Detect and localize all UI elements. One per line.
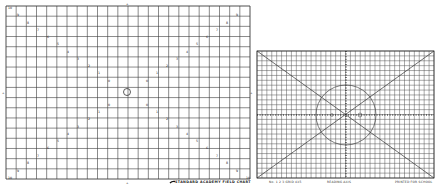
field-marker: 0 xyxy=(108,103,110,107)
field-marker: 5 xyxy=(57,42,59,46)
svg-text:+: + xyxy=(126,181,129,185)
field-marker: 1 xyxy=(98,71,100,75)
field-marker: 3 xyxy=(176,57,178,61)
field-marker: 1 xyxy=(98,110,100,114)
field-marker: 2 xyxy=(88,64,90,68)
chart-caption: STANDARD ACADEMY FIELD CHART xyxy=(175,180,251,184)
field-marker: 9 xyxy=(17,13,19,17)
svg-text:+: + xyxy=(126,2,129,6)
field-marker: 5 xyxy=(196,139,198,143)
field-marker: 2 xyxy=(166,64,168,68)
reading-axis-grid-chart: No. 1 2 3 GRID 4X5 READING AXIS PRINTED … xyxy=(255,48,435,187)
field-marker: 4 xyxy=(67,132,69,136)
standard-academy-field-chart: 1098765432109876543210012345678910012345… xyxy=(0,0,258,187)
field-marker: 7 xyxy=(37,28,39,32)
field-marker: 8 xyxy=(226,161,228,165)
field-marker: 0 xyxy=(146,79,148,83)
svg-text:+: + xyxy=(250,91,253,95)
field-marker: 9 xyxy=(236,13,238,17)
field-marker: 6 xyxy=(206,35,208,39)
footer-label-right: PRINTED FOR SCHOOL xyxy=(395,180,432,184)
field-marker: 10 xyxy=(8,6,12,10)
field-marker: 7 xyxy=(216,28,218,32)
field-marker: 9 xyxy=(17,169,19,173)
field-marker: 3 xyxy=(176,125,178,129)
field-marker: 1 xyxy=(156,71,158,75)
field-marker: 6 xyxy=(206,146,208,150)
field-marker: 8 xyxy=(27,21,29,25)
svg-text:+: + xyxy=(2,91,5,95)
field-marker: 6 xyxy=(47,35,49,39)
footer-label-center: READING AXIS xyxy=(327,180,351,184)
field-marker: 9 xyxy=(236,169,238,173)
field-marker: 6 xyxy=(47,146,49,150)
field-marker: 8 xyxy=(226,21,228,25)
field-marker: 7 xyxy=(216,154,218,158)
axis-grid xyxy=(255,48,435,187)
field-marker: 7 xyxy=(37,154,39,158)
footer-label-left: No. 1 2 3 GRID 4X5 xyxy=(269,180,302,184)
field-marker: 0 xyxy=(108,79,110,83)
field-chart-grid: 1098765432109876543210012345678910012345… xyxy=(0,0,258,187)
field-marker: 4 xyxy=(186,50,188,54)
field-marker: 0 xyxy=(146,103,148,107)
field-marker: 3 xyxy=(77,57,79,61)
field-marker: 4 xyxy=(186,132,188,136)
field-marker: 2 xyxy=(88,117,90,121)
field-marker: 1 xyxy=(156,110,158,114)
fixation-point-icon xyxy=(124,89,131,96)
field-marker: 10 xyxy=(8,176,12,180)
field-marker: 5 xyxy=(57,139,59,143)
field-marker: 4 xyxy=(67,50,69,54)
field-marker: 8 xyxy=(27,161,29,165)
field-marker: 3 xyxy=(77,125,79,129)
field-marker: 2 xyxy=(166,117,168,121)
field-marker: 5 xyxy=(196,42,198,46)
